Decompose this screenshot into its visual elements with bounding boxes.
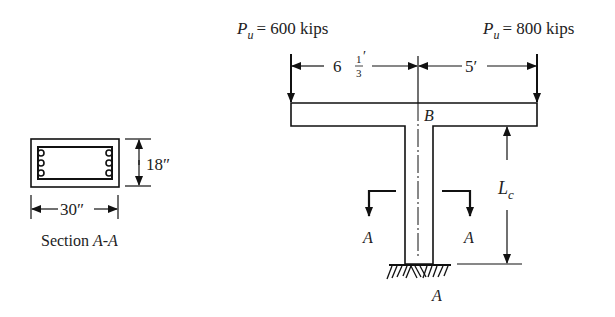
section-cut-left: A [362, 191, 396, 246]
column-length-label: Lc [497, 178, 514, 202]
section-width-label: 30″ [60, 200, 84, 219]
section-caption: Section A-A [41, 232, 118, 249]
dim-left-whole: 6 [333, 57, 342, 76]
load-left: Pu= 600 kips [236, 19, 328, 102]
svg-text:Pu= 800 kips: Pu= 800 kips [482, 19, 574, 42]
dim-left-prime: ′ [363, 49, 366, 64]
load-right: Pu= 800 kips [482, 19, 574, 102]
dim-right-label: 5′ [465, 57, 477, 76]
beam-dimensions: 6 1 3 ′ 5′ [292, 49, 536, 103]
joint-label-b: B [424, 107, 434, 124]
section-stirrup [38, 147, 112, 179]
dim-left-den: 3 [356, 67, 362, 79]
svg-text:Pu= 600 kips: Pu= 600 kips [236, 19, 328, 42]
dim-left-num: 1 [356, 53, 362, 65]
section-a-a: 18″ 30″ Section A-A [31, 139, 170, 249]
svg-text:A: A [362, 229, 373, 246]
rebar-circles [38, 150, 112, 176]
column-diagram: 18″ 30″ Section A-A Pu= 600 kips Pu= 800… [0, 0, 615, 317]
section-cut-right: A [442, 191, 474, 246]
svg-text:A: A [463, 229, 474, 246]
fixed-support: A [387, 265, 451, 304]
section-height-label: 18″ [146, 155, 170, 174]
base-label-a: A [431, 287, 442, 304]
